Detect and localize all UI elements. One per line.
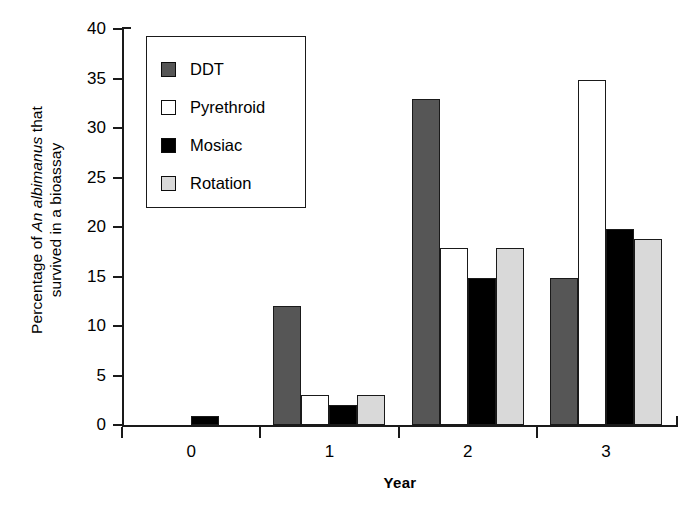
- chart-legend: DDTPyrethroidMosiacRotation: [146, 36, 306, 208]
- bar-mosiac-year-0: [191, 416, 219, 425]
- y-tick-35: [113, 78, 122, 80]
- x-tick-label-1: 1: [309, 443, 349, 461]
- y-tick-label-30: 30: [66, 119, 106, 136]
- legend-swatch-ddt-icon: [161, 62, 176, 77]
- y-tick-5: [113, 375, 122, 377]
- x-axis-right-cap: [676, 416, 678, 427]
- legend-swatch-rotation-icon: [161, 176, 176, 191]
- legend-item-ddt[interactable]: DDT: [161, 50, 305, 88]
- x-tick-label-3: 3: [586, 443, 626, 461]
- y-tick-40: [113, 28, 122, 30]
- bar-mosiac-year-1: [329, 405, 357, 425]
- y-tick-label-0: 0: [66, 416, 106, 433]
- legend-label-pyrethroid: Pyrethroid: [190, 99, 265, 116]
- y-tick-25: [113, 177, 122, 179]
- x-tick-2: [398, 427, 400, 438]
- legend-label-rotation: Rotation: [190, 175, 251, 192]
- x-tick-label-0: 0: [171, 443, 211, 461]
- y-tick-label-15: 15: [66, 268, 106, 285]
- x-tick-0: [121, 427, 123, 438]
- legend-item-rotation[interactable]: Rotation: [161, 164, 305, 202]
- x-tick-1: [259, 427, 261, 438]
- bar-ddt-year-3: [550, 278, 578, 426]
- y-tick-label-25: 25: [66, 169, 106, 186]
- bar-pyrethroid-year-2: [440, 248, 468, 425]
- legend-label-ddt: DDT: [190, 61, 224, 78]
- y-tick-label-40: 40: [66, 20, 106, 37]
- bar-rotation-year-3: [634, 239, 662, 425]
- y-tick-20: [113, 226, 122, 228]
- x-tick-3: [536, 427, 538, 438]
- bar-chart-figure: Percentage of An albimanus that survived…: [0, 0, 697, 514]
- y-tick-15: [113, 276, 122, 278]
- bar-ddt-year-1: [273, 306, 301, 425]
- x-tick-label-2: 2: [448, 443, 488, 461]
- y-tick-30: [113, 127, 122, 129]
- bar-pyrethroid-year-1: [301, 395, 329, 425]
- bar-ddt-year-2: [412, 99, 440, 425]
- bar-mosiac-year-3: [606, 229, 634, 425]
- y-axis-title-line-2: survived in a bioassay: [46, 106, 65, 334]
- bar-pyrethroid-year-3: [578, 80, 606, 426]
- bar-rotation-year-2: [496, 248, 524, 425]
- y-tick-10: [113, 325, 122, 327]
- legend-swatch-pyrethroid-icon: [161, 100, 176, 115]
- y-tick-label-35: 35: [66, 70, 106, 87]
- legend-swatch-mosiac-icon: [161, 138, 176, 153]
- bar-rotation-year-1: [357, 395, 385, 425]
- x-axis-title: Year: [122, 474, 678, 491]
- y-tick-label-5: 5: [66, 367, 106, 384]
- legend-item-pyrethroid[interactable]: Pyrethroid: [161, 88, 305, 126]
- legend-label-mosiac: Mosiac: [190, 137, 242, 154]
- y-tick-label-20: 20: [66, 218, 106, 235]
- bar-mosiac-year-2: [468, 278, 496, 426]
- y-axis-title-line-1: Percentage of An albimanus that: [27, 106, 46, 334]
- legend-item-mosiac[interactable]: Mosiac: [161, 126, 305, 164]
- x-axis-line: [122, 425, 678, 427]
- y-tick-0: [113, 424, 122, 426]
- y-tick-label-10: 10: [66, 317, 106, 334]
